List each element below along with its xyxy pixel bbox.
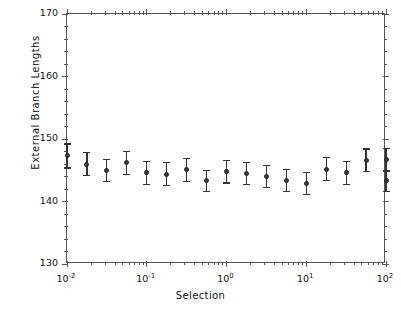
- data-marker: [384, 178, 389, 183]
- error-bar-cap-upper: [223, 160, 230, 161]
- data-marker: [104, 168, 109, 173]
- x-minor-tick: [91, 262, 92, 266]
- y-minor-tick: [384, 101, 388, 102]
- y-minor-tick: [64, 239, 68, 240]
- data-point-13: [320, 157, 332, 181]
- x-minor-tick: [373, 11, 374, 15]
- x-minor-tick: [288, 11, 289, 15]
- y-minor-tick: [64, 214, 68, 215]
- y-tick-label-150: 150: [18, 132, 58, 143]
- data-point-14: [340, 161, 352, 185]
- x-tick-label-2: 100: [206, 272, 246, 284]
- figure: External Branch Lengths Selection 130140…: [0, 0, 401, 309]
- y-tick-label-160: 160: [18, 70, 58, 81]
- y-minor-tick: [384, 39, 388, 40]
- error-bar-cap-lower: [64, 167, 71, 168]
- error-bar-cap-upper: [263, 165, 270, 166]
- y-tick-140: [62, 201, 68, 202]
- error-bar-cap-lower: [263, 187, 270, 188]
- x-minor-tick: [208, 11, 209, 15]
- error-bar-cap-lower: [123, 174, 130, 175]
- x-minor-tick: [134, 11, 135, 15]
- y-tick-label-170: 170: [18, 7, 58, 18]
- y-tick-right-160: [383, 76, 389, 77]
- y-minor-tick: [64, 101, 68, 102]
- data-point-1: [81, 152, 93, 176]
- x-minor-tick: [250, 11, 251, 15]
- x-minor-tick: [122, 11, 123, 15]
- data-marker: [244, 171, 249, 176]
- data-marker: [344, 170, 349, 175]
- data-point-7: [201, 170, 213, 193]
- y-tick-160: [62, 76, 68, 77]
- x-minor-tick: [202, 11, 203, 15]
- x-minor-tick: [382, 262, 383, 266]
- data-marker: [364, 158, 369, 163]
- x-tick-top-1: [146, 9, 147, 15]
- x-minor-tick: [208, 262, 209, 266]
- error-bar-cap-upper: [343, 161, 350, 162]
- x-minor-tick: [129, 262, 130, 266]
- x-tick-mantissa-0: 10: [56, 273, 68, 284]
- error-bar-cap-lower: [143, 184, 150, 185]
- x-minor-tick: [91, 11, 92, 15]
- y-minor-tick: [384, 89, 388, 90]
- x-tick-label-3: 101: [285, 272, 325, 284]
- x-minor-tick: [202, 262, 203, 266]
- data-marker: [264, 174, 269, 179]
- y-minor-tick: [64, 189, 68, 190]
- error-bar-cap-upper: [383, 148, 390, 149]
- x-minor-tick: [282, 262, 283, 266]
- error-bar-cap-lower: [223, 182, 230, 183]
- data-marker: [65, 153, 70, 158]
- data-point-8: [221, 160, 233, 184]
- x-tick-exponent-3: 1: [309, 272, 313, 280]
- y-axis-title-area: External Branch Lengths: [0, 0, 60, 250]
- x-tick-exponent-4: 2: [389, 272, 393, 280]
- x-minor-tick: [214, 11, 215, 15]
- data-point-3: [121, 151, 133, 175]
- x-tick-mantissa-3: 10: [297, 273, 309, 284]
- x-tick-exponent-2: 0: [229, 272, 233, 280]
- x-minor-tick: [373, 262, 374, 266]
- x-tick-top-3: [306, 9, 307, 15]
- data-marker: [124, 160, 129, 165]
- x-minor-tick: [382, 11, 383, 15]
- data-marker: [84, 162, 89, 167]
- error-bar-cap-upper: [323, 157, 330, 158]
- y-tick-label-130: 130: [18, 257, 58, 268]
- error-bar-cap-upper: [203, 170, 210, 171]
- y-minor-tick: [64, 251, 68, 252]
- error-bar-cap-lower: [103, 181, 110, 182]
- x-minor-tick: [354, 11, 355, 15]
- x-minor-tick: [330, 11, 331, 15]
- error-bar-cap-upper: [283, 169, 290, 170]
- x-minor-tick: [298, 11, 299, 15]
- y-minor-tick: [384, 251, 388, 252]
- x-tick-mantissa-4: 10: [377, 273, 389, 284]
- data-marker: [284, 178, 289, 183]
- y-minor-tick: [384, 226, 388, 227]
- y-minor-tick: [64, 51, 68, 52]
- x-tick-3: [306, 261, 307, 267]
- error-bar-cap-lower: [183, 181, 190, 182]
- error-bar-cap-upper: [123, 151, 130, 152]
- x-minor-tick: [222, 11, 223, 15]
- x-minor-tick: [274, 11, 275, 15]
- x-tick-label-4: 102: [365, 272, 401, 284]
- y-tick-right-150: [383, 139, 389, 140]
- data-point-6: [181, 158, 193, 182]
- y-minor-tick: [64, 114, 68, 115]
- x-tick-exponent-1: -1: [148, 272, 155, 280]
- x-tick-top-2: [226, 9, 227, 15]
- x-tick-4: [386, 261, 387, 267]
- data-marker: [384, 157, 389, 162]
- x-minor-tick: [139, 11, 140, 15]
- error-bar-cap-lower: [283, 191, 290, 192]
- x-minor-tick: [368, 11, 369, 15]
- y-minor-tick: [64, 226, 68, 227]
- plot-area: [66, 13, 385, 263]
- error-bar-cap-upper: [143, 161, 150, 162]
- x-minor-tick: [105, 11, 106, 15]
- data-point-15: [360, 148, 372, 172]
